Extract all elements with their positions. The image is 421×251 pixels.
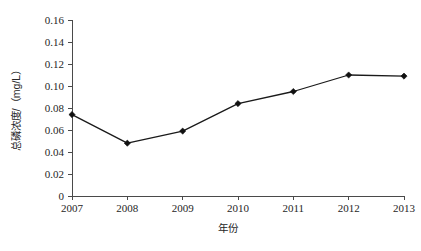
y-tick-label: 0.04 [45, 146, 65, 158]
data-point-marker [401, 73, 407, 79]
x-tick-label: 2007 [61, 202, 84, 214]
y-tick-label: 0.12 [45, 58, 64, 70]
y-axis: 00.020.040.060.080.100.120.140.16 [45, 14, 72, 202]
y-tick-label: 0 [59, 190, 65, 202]
x-tick-label: 2011 [283, 202, 305, 214]
y-tick-label: 0.08 [45, 102, 65, 114]
y-tick-label: 0.14 [45, 36, 65, 48]
x-tick-label: 2008 [116, 202, 139, 214]
line-chart: 00.020.040.060.080.100.120.140.16 200720… [0, 0, 421, 251]
y-tick-label: 0.06 [45, 124, 65, 136]
data-point-marker [180, 128, 186, 134]
y-tick-label: 0.10 [45, 80, 65, 92]
x-axis-title: 年份 [218, 222, 239, 234]
chart-page: 00.020.040.060.080.100.120.140.16 200720… [0, 0, 421, 251]
y-tick-label: 0.02 [45, 168, 64, 180]
data-point-marker [124, 140, 130, 146]
data-point-marker [235, 101, 241, 107]
data-point-marker [346, 72, 352, 78]
x-tick-label: 2010 [227, 202, 250, 214]
data-point-marker [290, 88, 296, 94]
y-tick-label: 0.16 [45, 14, 65, 26]
data-point-marker [69, 112, 75, 118]
x-tick-label: 2009 [172, 202, 195, 214]
x-axis: 2007200820092010201120122013 [61, 196, 416, 214]
data-series [69, 72, 407, 146]
series-line [72, 75, 404, 143]
x-tick-label: 2013 [393, 202, 416, 214]
y-axis-title: 总磷浓度/（mg/L） [10, 65, 22, 151]
x-tick-label: 2012 [338, 202, 360, 214]
